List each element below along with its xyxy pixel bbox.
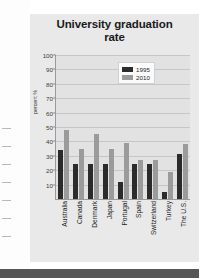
bar-group xyxy=(161,55,176,199)
x-axis-label-portugal: Portugal xyxy=(121,201,128,226)
bar-turkey-2010 xyxy=(168,172,173,199)
chart-legend: 19952010 xyxy=(118,62,155,84)
bar-japan-1995 xyxy=(103,164,108,199)
y-tick-label: 60 xyxy=(46,109,53,116)
page-margin-dash xyxy=(2,128,11,129)
page-margin-dash xyxy=(2,164,11,165)
x-axis-label-denmark: Denmark xyxy=(91,201,98,228)
x-axis-label-canada: Canada xyxy=(76,201,83,224)
page-margin-dash xyxy=(2,182,11,183)
x-axis-label-turkey: Turkey xyxy=(165,201,172,221)
bar-the-u-s--2010 xyxy=(183,144,188,199)
bar-canada-1995 xyxy=(73,164,78,199)
bar-spain-2010 xyxy=(138,160,143,199)
y-tick-label: 90 xyxy=(46,66,53,73)
bar-denmark-2010 xyxy=(94,134,99,199)
y-tick-label: 40 xyxy=(46,138,53,145)
bar-australia-2010 xyxy=(64,130,69,199)
page-left-margin xyxy=(0,0,30,278)
page-margin-dash xyxy=(2,236,11,237)
y-tick-label: 20 xyxy=(46,167,53,174)
legend-swatch-1995 xyxy=(122,67,133,72)
legend-swatch-2010 xyxy=(122,75,133,80)
chart-figure-panel: University graduation rate percent % 102… xyxy=(30,14,199,262)
bar-australia-1995 xyxy=(58,150,63,199)
y-tick-label: 50 xyxy=(46,124,53,131)
y-axis-title: percent % xyxy=(32,90,38,114)
legend-item-2010: 2010 xyxy=(122,73,150,81)
page-margin-dash xyxy=(2,146,11,147)
y-tick-label: 10 xyxy=(46,181,53,188)
bar-the-u-s--1995 xyxy=(177,154,182,199)
chart-title-line-2: rate xyxy=(30,31,199,44)
bar-portugal-1995 xyxy=(118,182,123,199)
x-axis-label-spain: Spain xyxy=(135,201,142,218)
bar-group xyxy=(102,55,117,199)
legend-label-2010: 2010 xyxy=(136,74,150,81)
page-margin-dash xyxy=(2,200,11,201)
x-axis-label-australia: Australia xyxy=(61,201,68,227)
legend-label-1995: 1995 xyxy=(136,66,150,73)
bar-spain-1995 xyxy=(132,164,137,199)
bar-switzerland-1995 xyxy=(147,164,152,199)
bar-group xyxy=(176,55,191,199)
x-axis-label-switzerland: Switzerland xyxy=(150,201,157,235)
bar-denmark-1995 xyxy=(88,164,93,199)
bottom-band xyxy=(0,269,199,278)
bar-turkey-1995 xyxy=(162,192,167,199)
bar-japan-2010 xyxy=(109,149,114,199)
x-axis-label-japan: Japan xyxy=(106,201,113,219)
y-tick-label: 70 xyxy=(46,95,53,102)
chart-title-line-1: University graduation xyxy=(30,18,199,31)
chart-title: University graduation rate xyxy=(30,18,199,44)
bar-canada-2010 xyxy=(79,149,84,199)
bar-group xyxy=(72,55,87,199)
bar-group xyxy=(87,55,102,199)
x-axis-label-the-u-s-: The U.S. xyxy=(180,201,187,227)
bar-group xyxy=(57,55,72,199)
x-axis-labels: AustraliaCanadaDenmarkJapanPortugalSpain… xyxy=(55,201,189,261)
y-tick-label: 100 xyxy=(43,52,53,59)
y-tick-label: 80 xyxy=(46,80,53,87)
y-tick-label: 30 xyxy=(46,152,53,159)
bar-portugal-2010 xyxy=(124,143,129,199)
legend-item-1995: 1995 xyxy=(122,65,150,73)
page-margin-dash xyxy=(2,218,11,219)
bar-switzerland-2010 xyxy=(153,160,158,199)
